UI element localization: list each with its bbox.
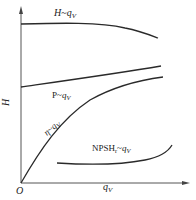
- npsh-curve-label: NPSHr~qV: [92, 143, 131, 154]
- origin-label: O: [16, 185, 23, 196]
- p-curve: [21, 66, 161, 87]
- p-curve-label: P~qV: [52, 90, 71, 101]
- x-axis-arrow-icon: [182, 181, 190, 185]
- y-axis-arrow-icon: [19, 6, 23, 14]
- axes: [21, 12, 184, 183]
- h-curve-label: H~qV: [53, 7, 77, 20]
- h-curve: [21, 23, 158, 38]
- y-axis-label: H: [0, 98, 11, 107]
- pump-performance-chart: H O qV H~qV P~qV η~qV NPSHr~qV: [0, 0, 196, 200]
